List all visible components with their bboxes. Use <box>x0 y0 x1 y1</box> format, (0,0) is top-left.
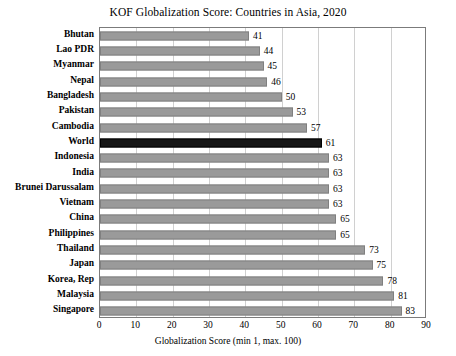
bar-value-label: 50 <box>286 92 296 102</box>
bar-value-label: 45 <box>268 61 278 71</box>
x-tick-label: 0 <box>87 320 111 330</box>
bar-value-label: 46 <box>271 77 281 87</box>
bar-row: 83 <box>100 304 425 319</box>
bar <box>100 230 336 239</box>
bar-value-label: 61 <box>326 138 336 148</box>
category-label: Lao PDR <box>56 44 94 54</box>
bar-row: 44 <box>100 43 425 58</box>
category-label: Myanmar <box>53 59 94 69</box>
bar <box>100 246 365 255</box>
bar-value-label: 63 <box>333 184 343 194</box>
category-label: Japan <box>69 258 94 268</box>
bar <box>100 307 402 316</box>
category-label: Brunei Darussalam <box>15 182 94 192</box>
bar-row: 46 <box>100 74 425 89</box>
bar <box>100 77 267 86</box>
bar-row: 50 <box>100 89 425 104</box>
bar-value-label: 41 <box>253 31 263 41</box>
bar-row: 73 <box>100 242 425 257</box>
x-tick-label: 10 <box>123 320 147 330</box>
bar-row: 63 <box>100 181 425 196</box>
bars-layer: 41444546505357616363636365657375788183 <box>100 28 425 317</box>
bar-value-label: 57 <box>311 123 321 133</box>
category-label: Indonesia <box>54 151 94 161</box>
category-label: Bhutan <box>64 29 94 39</box>
bar <box>100 276 383 285</box>
bar-value-label: 63 <box>333 168 343 178</box>
bar-value-label: 44 <box>264 46 274 56</box>
category-label: Korea, Rep <box>48 274 94 284</box>
category-label: Malaysia <box>57 289 94 299</box>
category-label: World <box>68 136 94 146</box>
x-tick-label: 50 <box>269 320 293 330</box>
bar <box>100 138 322 147</box>
bar <box>100 92 282 101</box>
bar-row: 63 <box>100 151 425 166</box>
x-tick-label: 40 <box>232 320 256 330</box>
x-tick-label: 90 <box>414 320 438 330</box>
bar-value-label: 63 <box>333 153 343 163</box>
x-tick-label: 70 <box>341 320 365 330</box>
bar-row: 63 <box>100 196 425 211</box>
bar-row: 65 <box>100 212 425 227</box>
bar-row: 41 <box>100 28 425 43</box>
bar-value-label: 83 <box>406 306 416 316</box>
category-label: Thailand <box>57 243 94 253</box>
category-label: Nepal <box>70 75 94 85</box>
x-tick-label: 80 <box>378 320 402 330</box>
bar <box>100 261 373 270</box>
bar-row: 45 <box>100 59 425 74</box>
bar <box>100 169 329 178</box>
bar-row: 75 <box>100 258 425 273</box>
x-tick-label: 60 <box>305 320 329 330</box>
x-tick-label: 20 <box>160 320 184 330</box>
bar-row: 63 <box>100 166 425 181</box>
bar <box>100 184 329 193</box>
x-axis-label: Globalization Score (min 1, max. 100) <box>0 336 456 346</box>
bar <box>100 154 329 163</box>
bar-row: 61 <box>100 135 425 150</box>
bar <box>100 108 293 117</box>
bar <box>100 292 394 301</box>
bar <box>100 200 329 209</box>
category-label: India <box>72 167 94 177</box>
bar-row: 81 <box>100 288 425 303</box>
bar-row: 65 <box>100 227 425 242</box>
chart-title: KOF Globalization Score: Countries in As… <box>0 6 456 18</box>
bar-value-label: 78 <box>387 276 397 286</box>
bar <box>100 46 260 55</box>
x-tick-label: 30 <box>196 320 220 330</box>
category-label: Pakistan <box>59 105 94 115</box>
bar-value-label: 75 <box>377 260 387 270</box>
bar <box>100 215 336 224</box>
bar-row: 53 <box>100 105 425 120</box>
bar-value-label: 53 <box>297 107 307 117</box>
bar <box>100 62 264 71</box>
bar <box>100 123 307 132</box>
category-label: Singapore <box>53 304 94 314</box>
bar <box>100 31 249 40</box>
category-label: China <box>69 212 94 222</box>
bar-value-label: 65 <box>340 230 350 240</box>
bar-value-label: 73 <box>369 245 379 255</box>
bar-value-label: 65 <box>340 214 350 224</box>
chart-container: KOF Globalization Score: Countries in As… <box>0 0 456 356</box>
bar-row: 78 <box>100 273 425 288</box>
bar-value-label: 63 <box>333 199 343 209</box>
bar-value-label: 81 <box>398 291 408 301</box>
bar-row: 57 <box>100 120 425 135</box>
category-label: Vietnam <box>60 197 94 207</box>
category-label: Cambodia <box>52 121 94 131</box>
category-label: Philippines <box>49 228 94 238</box>
plot-area: 41444546505357616363636365657375788183 <box>99 27 426 318</box>
category-label: Bangladesh <box>47 90 94 100</box>
